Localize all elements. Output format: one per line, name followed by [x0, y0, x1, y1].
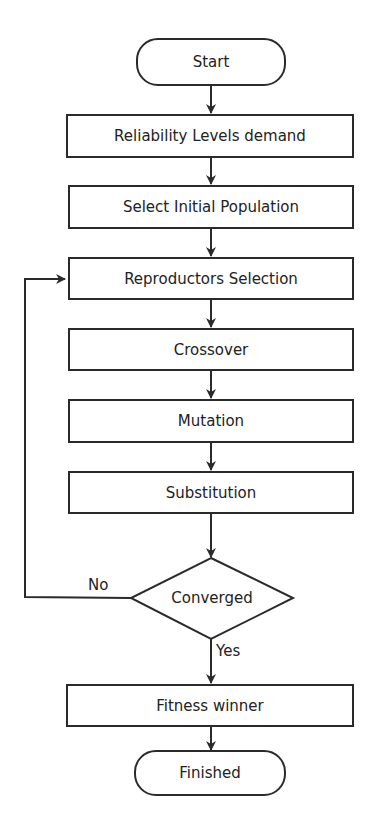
step-mutation: Mutation: [68, 399, 354, 443]
step-label: Fitness winner: [156, 697, 264, 715]
decision-label: Converged: [171, 589, 252, 607]
step-crossover: Crossover: [68, 328, 354, 371]
start-terminal: Start: [136, 38, 286, 86]
yes-label: Yes: [216, 642, 240, 660]
step-label: Select Initial Population: [123, 198, 299, 216]
step-label: Substitution: [166, 484, 257, 502]
end-label: Finished: [179, 764, 240, 782]
step-fitness-winner: Fitness winner: [66, 684, 354, 727]
decision-converged: Converged: [131, 578, 293, 618]
step-label: Reproductors Selection: [124, 270, 298, 288]
end-terminal: Finished: [134, 750, 286, 796]
step-label: Crossover: [174, 341, 249, 359]
step-substitution: Substitution: [68, 471, 354, 514]
step-label: Reliability Levels demand: [114, 127, 306, 145]
step-select-initial-population: Select Initial Population: [68, 185, 354, 229]
start-label: Start: [193, 53, 230, 71]
step-label: Mutation: [178, 412, 244, 430]
step-reproductors-selection: Reproductors Selection: [68, 257, 354, 300]
no-label: No: [88, 576, 108, 594]
step-reliability-levels: Reliability Levels demand: [66, 114, 354, 158]
